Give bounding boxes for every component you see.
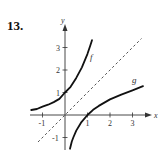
x-tick-label: -1 xyxy=(39,119,46,128)
y-tick-label: 1 xyxy=(56,89,60,98)
y-tick-label: -1 xyxy=(52,134,59,143)
x-tick-label: 2 xyxy=(108,119,112,128)
curve-f-label: f xyxy=(90,52,94,62)
y-axis: -1 1 2 3 y xyxy=(52,16,68,150)
y-tick-label: 3 xyxy=(56,44,60,53)
x-axis-arrow-icon xyxy=(145,113,152,118)
y-axis-label: y xyxy=(60,16,65,25)
curve-g-label: g xyxy=(132,75,137,85)
x-tick-label: 1 xyxy=(86,119,90,128)
y-tick-label: 2 xyxy=(56,66,60,75)
x-axis: -1 1 2 3 x xyxy=(30,111,158,129)
curve-f xyxy=(31,40,92,110)
y-axis-arrow-icon xyxy=(63,24,68,31)
x-axis-label: x xyxy=(153,111,158,120)
curve-g xyxy=(70,86,143,149)
x-tick-label: 3 xyxy=(131,119,135,128)
graph: -1 1 2 3 x -1 1 2 3 y f g xyxy=(0,0,166,151)
